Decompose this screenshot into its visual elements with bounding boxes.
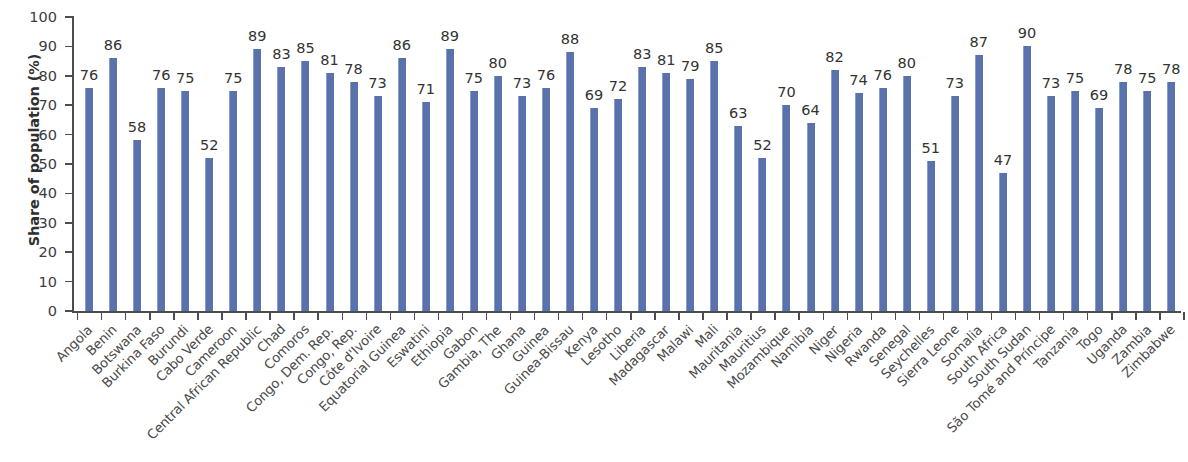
y-axis-tick-label: 10 <box>17 275 57 290</box>
bar <box>903 76 911 311</box>
bar <box>879 88 887 311</box>
y-axis-tick <box>65 16 73 18</box>
bar <box>614 99 622 311</box>
bar-value-label: 52 <box>745 138 779 153</box>
bar-value-label: 75 <box>457 71 491 86</box>
bar <box>999 173 1007 311</box>
bar-value-label: 75 <box>1058 71 1092 86</box>
bar <box>590 108 598 311</box>
bar <box>831 70 839 311</box>
x-axis-tick <box>101 312 102 320</box>
x-axis-tick <box>726 312 727 320</box>
x-axis-tick <box>366 312 367 320</box>
bar <box>277 67 285 311</box>
x-axis-tick <box>798 312 799 320</box>
y-axis-tick <box>65 193 73 195</box>
bar <box>1071 91 1079 312</box>
x-axis-tick <box>1159 312 1160 320</box>
bar-value-label: 87 <box>962 35 996 50</box>
bar <box>109 58 117 311</box>
x-axis-tick <box>991 312 992 320</box>
y-axis-tick-label: 30 <box>17 216 57 231</box>
bar <box>927 161 935 311</box>
bar <box>518 96 526 311</box>
x-axis-tick <box>149 312 150 320</box>
bar <box>494 76 502 311</box>
x-axis-tick <box>630 312 631 320</box>
x-axis-tick <box>510 312 511 320</box>
x-axis-tick <box>871 312 872 320</box>
y-axis-title: Share of population (%) <box>26 20 42 280</box>
x-axis-tick <box>606 312 607 320</box>
bar <box>350 82 358 311</box>
bar-value-label: 85 <box>697 41 731 56</box>
bar-value-label: 75 <box>168 71 202 86</box>
bar-value-label: 51 <box>914 141 948 156</box>
bar <box>1167 82 1175 311</box>
bar <box>157 88 165 311</box>
x-axis-tick <box>173 312 174 320</box>
x-axis-tick <box>919 312 920 320</box>
bar <box>470 91 478 312</box>
x-axis-tick <box>414 312 415 320</box>
x-axis-tick <box>943 312 944 320</box>
y-axis-tick-label: 50 <box>17 157 57 172</box>
bar <box>638 67 646 311</box>
bar <box>253 49 261 311</box>
x-axis-tick <box>582 312 583 320</box>
bar-value-label: 58 <box>120 120 154 135</box>
x-axis-tick <box>1015 312 1016 320</box>
x-axis-tick <box>221 312 222 320</box>
bar <box>782 105 790 311</box>
x-axis-tick <box>1087 312 1088 320</box>
bar <box>1047 96 1055 311</box>
x-axis-tick <box>317 312 318 320</box>
y-axis-tick-label: 0 <box>17 304 57 319</box>
bar-value-label: 47 <box>986 153 1020 168</box>
y-axis-tick <box>65 222 73 224</box>
x-axis-tick <box>1039 312 1040 320</box>
x-axis-tick <box>77 312 78 320</box>
bar <box>975 55 983 311</box>
bar-value-label: 73 <box>361 76 395 91</box>
x-axis-tick <box>342 312 343 320</box>
y-axis-tick-label: 70 <box>17 98 57 113</box>
bar <box>205 158 213 311</box>
bar <box>374 96 382 311</box>
bar <box>662 73 670 311</box>
x-axis-tick <box>678 312 679 320</box>
bar <box>710 61 718 311</box>
bar <box>301 61 309 311</box>
bar-value-label: 72 <box>601 79 635 94</box>
bar <box>181 91 189 312</box>
y-axis-tick-label: 60 <box>17 128 57 143</box>
bar-value-label: 90 <box>1010 26 1044 41</box>
bar <box>398 58 406 311</box>
x-axis-tick <box>438 312 439 320</box>
bar <box>1023 46 1031 311</box>
bar-value-label: 52 <box>192 138 226 153</box>
x-axis-tick <box>1135 312 1136 320</box>
bar-value-label: 64 <box>794 103 828 118</box>
bar <box>85 88 93 311</box>
x-axis-tick <box>847 312 848 320</box>
bar <box>1095 108 1103 311</box>
x-axis-tick <box>269 312 270 320</box>
bar-value-label: 73 <box>938 76 972 91</box>
bar <box>422 102 430 311</box>
y-axis-tick <box>65 104 73 106</box>
y-axis-tick <box>65 46 73 48</box>
bar-value-label: 86 <box>385 38 419 53</box>
x-axis-tick <box>823 312 824 320</box>
x-axis-tick <box>654 312 655 320</box>
bar <box>1143 91 1151 312</box>
bar <box>326 73 334 311</box>
bar <box>855 93 863 311</box>
x-axis-tick <box>390 312 391 320</box>
y-axis-tick <box>65 134 73 136</box>
bar <box>446 49 454 311</box>
bar <box>542 88 550 311</box>
bar-value-label: 78 <box>1154 62 1188 77</box>
bar <box>566 52 574 311</box>
